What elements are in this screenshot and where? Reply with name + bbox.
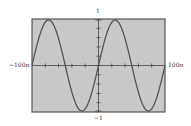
y-max-label: 1 [96,8,100,14]
x-min-label: −100π [9,62,29,68]
y-min-label: −1 [94,115,103,121]
x-max-label: 100π [168,62,183,68]
